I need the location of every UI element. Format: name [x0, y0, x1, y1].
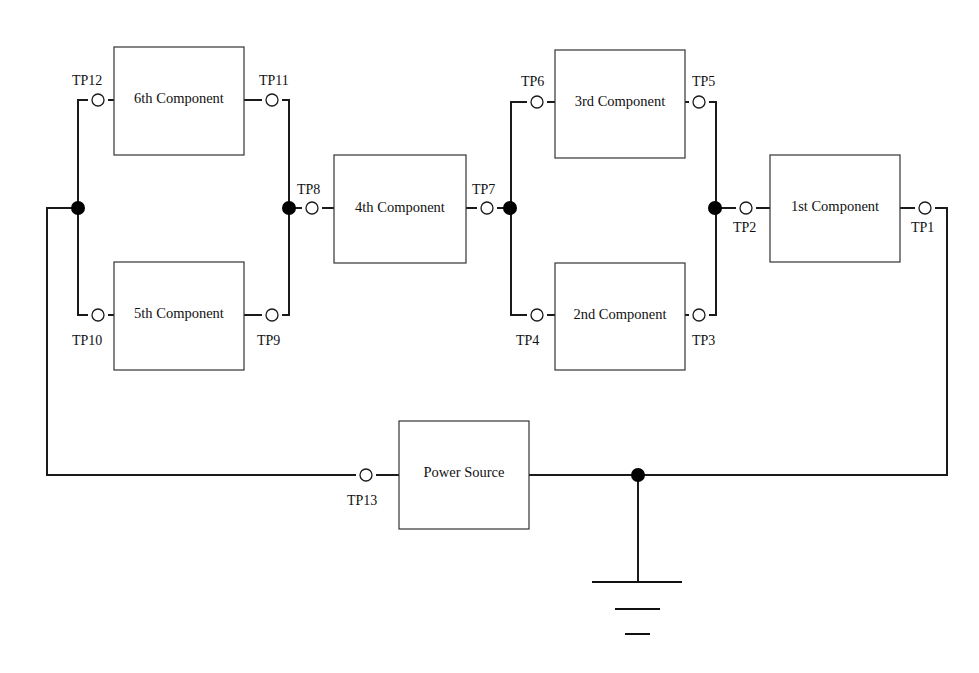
junction-dot-ground [631, 468, 645, 482]
component-4: 4th Component [334, 155, 466, 263]
test-point-tp6[interactable] [531, 96, 543, 108]
label-tp7: TP7 [472, 182, 495, 197]
ground-icon [592, 582, 682, 634]
component-5-label: 5th Component [134, 305, 224, 321]
component-3-label: 3rd Component [575, 93, 666, 109]
label-tp12: TP12 [72, 73, 102, 88]
label-tp5: TP5 [692, 74, 715, 89]
component-1: 1st Component [770, 155, 900, 262]
label-tp4: TP4 [516, 333, 539, 348]
label-tp10: TP10 [72, 333, 102, 348]
component-1-label: 1st Component [791, 198, 879, 214]
label-tp8: TP8 [297, 182, 320, 197]
power-source-label: Power Source [424, 464, 505, 480]
junction-dot-tp7 [503, 201, 517, 215]
label-tp13: TP13 [347, 493, 377, 508]
junction-dot-tp8 [282, 201, 296, 215]
label-tp11: TP11 [259, 73, 289, 88]
test-point-tp7[interactable] [481, 202, 493, 214]
test-point-tp5[interactable] [693, 96, 705, 108]
test-point-tp9[interactable] [266, 309, 278, 321]
power-source: Power Source [399, 421, 529, 529]
label-tp2: TP2 [733, 220, 756, 235]
test-point-tp2[interactable] [740, 202, 752, 214]
component-2-label: 2nd Component [573, 306, 666, 322]
label-tp1: TP1 [911, 220, 934, 235]
test-point-tp10[interactable] [92, 309, 104, 321]
test-point-tp12[interactable] [92, 94, 104, 106]
test-point-tp1[interactable] [919, 202, 931, 214]
junction-dot-left [71, 201, 85, 215]
component-6-label: 6th Component [134, 90, 224, 106]
label-tp9: TP9 [257, 333, 280, 348]
test-point-tp3[interactable] [693, 309, 705, 321]
component-6: 6th Component [114, 47, 244, 155]
test-point-tp8[interactable] [306, 202, 318, 214]
test-point-tp13[interactable] [360, 469, 372, 481]
label-tp6: TP6 [521, 74, 544, 89]
test-point-tp4[interactable] [531, 309, 543, 321]
label-tp3: TP3 [692, 333, 715, 348]
component-3: 3rd Component [555, 50, 685, 158]
junction-dot-tp2 [708, 201, 722, 215]
test-point-tp11[interactable] [266, 94, 278, 106]
component-5: 5th Component [114, 262, 244, 370]
circuit-diagram: 6th Component 5th Component 4th Componen… [0, 0, 979, 673]
component-4-label: 4th Component [355, 199, 445, 215]
component-2: 2nd Component [555, 263, 685, 370]
